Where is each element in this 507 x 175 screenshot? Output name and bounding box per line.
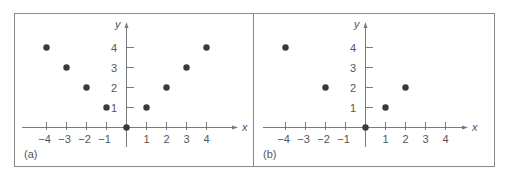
data-point <box>402 84 408 90</box>
data-point <box>322 84 328 90</box>
data-point <box>362 124 368 130</box>
x-tick-label: 2 <box>163 133 169 145</box>
y-tick-label: 4 <box>350 42 356 54</box>
x-tick-label: −1 <box>98 133 111 145</box>
x-tick-label: 3 <box>422 133 428 145</box>
y-tick-label: 2 <box>350 82 356 94</box>
x-tick-label: 2 <box>402 133 408 145</box>
x-tick-label: −3 <box>297 133 310 145</box>
x-tick-label: 1 <box>382 133 388 145</box>
data-point <box>382 104 388 110</box>
y-tick-label: 1 <box>350 102 356 114</box>
panel-label: (b) <box>263 148 276 160</box>
data-point <box>123 124 129 130</box>
y-tick-label: 1 <box>111 102 117 114</box>
data-point <box>63 64 69 70</box>
data-point <box>163 84 169 90</box>
data-point <box>43 44 49 50</box>
y-axis-label: y <box>114 18 122 30</box>
x-tick-label: 3 <box>183 133 189 145</box>
x-tick-label: 4 <box>203 133 209 145</box>
y-tick-label: 3 <box>350 62 356 74</box>
x-tick-label: −1 <box>337 133 350 145</box>
x-tick-label: 4 <box>442 133 448 145</box>
data-point <box>282 44 288 50</box>
y-tick-label: 4 <box>111 42 117 54</box>
panel-a: xy−4−3−2−112341234(a) <box>22 18 248 160</box>
x-axis-label: x <box>471 121 478 133</box>
x-tick-label: 1 <box>143 133 149 145</box>
x-axis-label: x <box>241 121 248 133</box>
x-axis-arrow-icon <box>232 126 238 130</box>
figure: xy−4−3−2−112341234(a) xy−4−3−2−112341234… <box>0 0 507 175</box>
panel-b: xy−4−3−2−112341234(b) <box>263 18 478 160</box>
data-point <box>183 64 189 70</box>
data-point <box>103 104 109 110</box>
x-tick-label: −4 <box>277 133 290 145</box>
data-point <box>83 84 89 90</box>
y-tick-label: 3 <box>111 62 117 74</box>
x-tick-label: −2 <box>317 133 330 145</box>
x-tick-label: −4 <box>38 133 51 145</box>
y-axis-label: y <box>353 18 361 30</box>
x-tick-label: −2 <box>78 133 91 145</box>
y-axis-arrow-icon <box>125 22 129 28</box>
panel-label: (a) <box>24 148 37 160</box>
data-point <box>203 44 209 50</box>
y-tick-label: 2 <box>111 82 117 94</box>
y-axis-arrow-icon <box>364 22 368 28</box>
x-axis-arrow-icon <box>462 126 468 130</box>
x-tick-label: −3 <box>58 133 71 145</box>
data-point <box>143 104 149 110</box>
